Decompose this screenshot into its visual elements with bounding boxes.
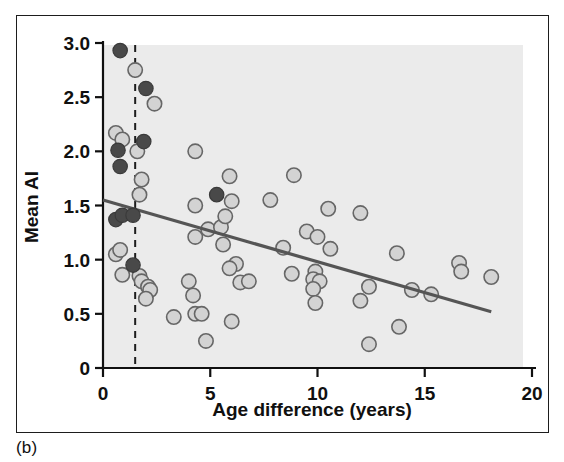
y-axis-title: Mean AI xyxy=(21,171,42,243)
data-point xyxy=(126,258,140,272)
data-point xyxy=(225,314,239,328)
data-point xyxy=(111,143,125,157)
scatter-plot: 00.51.01.52.02.53.0 05101520 Age differe… xyxy=(0,0,564,462)
data-point xyxy=(188,230,202,244)
data-point xyxy=(484,270,498,284)
data-point xyxy=(139,291,153,305)
data-point xyxy=(287,168,301,182)
data-point xyxy=(188,144,202,158)
data-point xyxy=(139,81,153,95)
data-point xyxy=(392,320,406,334)
data-point xyxy=(167,310,181,324)
data-point xyxy=(390,246,404,260)
y-axis-tick-label: 1.5 xyxy=(64,196,91,217)
y-axis-tick-label: 3.0 xyxy=(64,33,90,54)
data-point xyxy=(225,194,239,208)
data-point xyxy=(132,187,146,201)
data-point xyxy=(147,96,161,110)
x-axis-tick-label: 0 xyxy=(98,383,109,404)
data-point xyxy=(188,198,202,212)
data-point xyxy=(222,261,236,275)
data-point xyxy=(263,193,277,207)
data-point xyxy=(126,208,140,222)
figure-container: 00.51.01.52.02.53.0 05101520 Age differe… xyxy=(0,0,564,462)
data-point xyxy=(216,237,230,251)
data-point xyxy=(308,296,322,310)
data-point xyxy=(128,63,142,77)
data-point xyxy=(113,159,127,173)
data-point xyxy=(353,294,367,308)
plot-background-rect xyxy=(103,45,523,368)
data-point xyxy=(310,230,324,244)
data-point xyxy=(113,43,127,57)
y-axis-tick-label: 2.5 xyxy=(64,87,91,108)
data-point xyxy=(285,267,299,281)
data-point xyxy=(209,187,223,201)
data-point xyxy=(306,282,320,296)
data-point xyxy=(353,206,367,220)
data-point xyxy=(222,169,236,183)
data-point xyxy=(186,288,200,302)
y-axis-tick-label: 0.5 xyxy=(64,304,91,325)
y-axis-tick-label: 2.0 xyxy=(64,141,90,162)
data-point xyxy=(113,243,127,257)
y-axis-tick-label: 0 xyxy=(79,358,90,379)
x-axis-tick-label: 15 xyxy=(414,383,436,404)
data-point xyxy=(182,274,196,288)
data-point xyxy=(137,134,151,148)
data-point xyxy=(199,334,213,348)
data-point xyxy=(321,202,335,216)
data-point xyxy=(134,172,148,186)
data-point xyxy=(242,274,256,288)
x-axis-title: Age difference (years) xyxy=(212,399,412,420)
panel-label: (b) xyxy=(16,438,37,458)
x-axis-tick-label: 20 xyxy=(521,383,542,404)
y-axis-tick-label: 1.0 xyxy=(64,250,90,271)
data-point xyxy=(362,280,376,294)
data-point xyxy=(454,264,468,278)
data-point xyxy=(323,242,337,256)
data-point xyxy=(362,337,376,351)
plot-area-background xyxy=(103,45,523,368)
data-point xyxy=(194,307,208,321)
y-axis-tick-labels: 00.51.01.52.02.53.0 xyxy=(64,33,91,379)
data-point xyxy=(218,209,232,223)
